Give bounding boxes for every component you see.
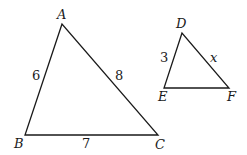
side-label-ab: 6 [32, 68, 40, 83]
side-label-bc: 7 [82, 136, 90, 151]
side-label-ac: 8 [115, 68, 123, 83]
triangle-def [164, 33, 229, 88]
vertex-label-b: B [13, 136, 24, 151]
diagram-canvas: A B C 6 8 7 D E F 3 x [0, 0, 247, 155]
vertex-label-a: A [56, 7, 66, 22]
triangle-abc [25, 24, 158, 135]
side-label-df: x [210, 50, 218, 65]
side-label-de: 3 [160, 50, 168, 65]
vertex-label-e: E [157, 89, 168, 104]
vertex-label-c: C [155, 137, 165, 152]
vertex-label-d: D [175, 16, 187, 31]
vertex-label-f: F [226, 89, 237, 104]
